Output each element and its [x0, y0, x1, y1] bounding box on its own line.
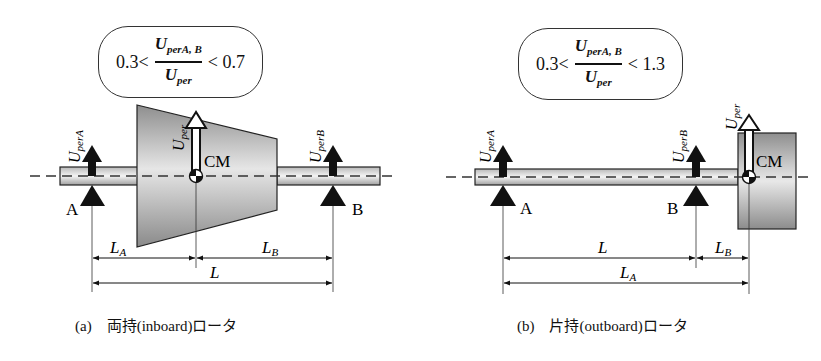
- dim-l-label: L: [209, 263, 219, 282]
- bearing-a-support-icon: [80, 185, 105, 206]
- bearing-b-label: B: [667, 199, 678, 218]
- dim-lb-label: LB: [261, 238, 278, 258]
- bearing-b-support-icon: [683, 185, 709, 206]
- formula-numerator: UperA, B: [575, 36, 622, 61]
- dim-la-label: LA: [109, 238, 126, 258]
- bearing-b-label: B: [352, 200, 363, 219]
- dim-la-label: LA: [619, 263, 636, 283]
- bearing-a-support-icon: [490, 185, 516, 206]
- center-mass-label: CM: [204, 152, 230, 171]
- formula-lower-bound: 0.3<: [116, 52, 149, 73]
- fraction-bar: [155, 61, 202, 63]
- formula-upper-bound: < 1.3: [628, 54, 665, 75]
- fraction-bar: [575, 63, 622, 65]
- formula-upper-bound: < 0.7: [208, 52, 245, 73]
- dim-l-label: L: [597, 238, 607, 257]
- dim-lb-label: LB: [714, 238, 731, 258]
- force-total-label: Uper: [723, 103, 742, 130]
- force-a-label: UperA: [477, 130, 496, 163]
- formula-fraction: UperA, B Uper: [155, 34, 202, 90]
- center-of-mass-icon: [190, 170, 203, 183]
- formula-lower-bound: 0.3<: [536, 54, 569, 75]
- force-b-label: UperB: [670, 130, 689, 163]
- center-mass-label: CM: [756, 152, 782, 171]
- force-b-label: UperB: [307, 130, 326, 163]
- formula-denominator: Uper: [165, 65, 192, 90]
- center-of-mass-icon: [743, 171, 756, 184]
- formula-box-b: 0.3< UperA, B Uper < 1.3: [518, 28, 683, 100]
- formula-box-a: 0.3< UperA, B Uper < 0.7: [98, 26, 263, 98]
- panel-b-outboard-rotor: A B CM UperA UperB Uper L LB LA: [446, 103, 808, 294]
- bearing-b-support-icon: [320, 185, 346, 206]
- bearing-a-label: A: [66, 200, 79, 219]
- caption-a: (a) 両持(inboard)ロータ: [75, 314, 237, 335]
- formula-fraction: UperA, B Uper: [575, 36, 622, 92]
- bearing-a-label: A: [520, 199, 533, 218]
- formula-numerator: UperA, B: [155, 34, 202, 59]
- force-a-label: UperA: [66, 130, 85, 163]
- panel-a-inboard-rotor: A B CM UperA UperB Uper LA LB L: [30, 105, 392, 292]
- caption-b: (b) 片持(outboard)ロータ: [517, 314, 688, 335]
- formula-denominator: Uper: [585, 67, 612, 92]
